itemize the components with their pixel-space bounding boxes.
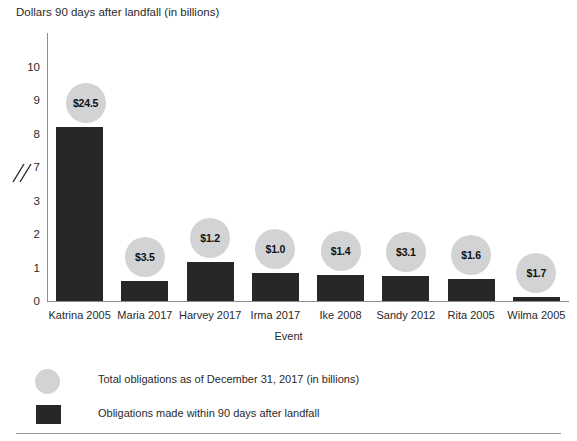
bar-ike-2008	[317, 275, 364, 301]
bar-sandy-2012	[382, 276, 429, 301]
bar-harvey-2017	[187, 262, 234, 301]
chart-title: Dollars 90 days after landfall (in billi…	[16, 6, 219, 18]
x-axis-line	[47, 301, 569, 302]
category-label-ike-2008: Ike 2008	[320, 309, 362, 321]
legend-square-swatch-icon	[36, 405, 61, 424]
y-tick-3: 3	[10, 195, 40, 207]
category-label-harvey-2017: Harvey 2017	[179, 309, 241, 321]
bar-rita-2005	[448, 279, 495, 301]
bar-maria-2017	[121, 281, 168, 301]
category-label-wilma-2005: Wilma 2005	[507, 309, 565, 321]
bubble-total-ike-2008: $1.4	[321, 231, 361, 271]
y-tick-0: 0	[10, 295, 40, 307]
axis-break-icon	[10, 161, 36, 185]
bar-wilma-2005	[513, 297, 560, 301]
chart-canvas: Dollars 90 days after landfall (in billi…	[0, 0, 577, 441]
legend-label-90day-obligations: Obligations made within 90 days after la…	[98, 407, 319, 419]
category-label-katrina-2005: Katrina 2005	[48, 309, 110, 321]
footer-divider	[16, 433, 561, 434]
y-tick-2: 2	[10, 228, 40, 240]
chart-legend: Total obligations as of December 31, 201…	[0, 368, 577, 428]
bubble-total-wilma-2005: $1.7	[516, 253, 556, 293]
category-label-sandy-2012: Sandy 2012	[377, 309, 436, 321]
bar-irma-2017	[252, 273, 299, 301]
bubble-total-katrina-2005: $24.5	[66, 83, 106, 123]
y-tick-1: 1	[10, 262, 40, 274]
y-tick-9: 9	[10, 94, 40, 106]
bubble-total-irma-2017: $1.0	[255, 229, 295, 269]
category-label-maria-2017: Maria 2017	[117, 309, 172, 321]
x-axis-label: Event	[0, 330, 577, 342]
bar-katrina-2005	[56, 127, 103, 301]
bubble-total-maria-2017: $3.5	[125, 237, 165, 277]
y-tick-10: 10	[10, 61, 40, 73]
legend-label-total-obligations: Total obligations as of December 31, 201…	[98, 373, 359, 385]
category-label-rita-2005: Rita 2005	[448, 309, 495, 321]
legend-circle-swatch-icon	[35, 369, 60, 394]
y-tick-8: 8	[10, 128, 40, 140]
category-label-irma-2017: Irma 2017	[251, 309, 301, 321]
bubble-total-sandy-2012: $3.1	[386, 232, 426, 272]
